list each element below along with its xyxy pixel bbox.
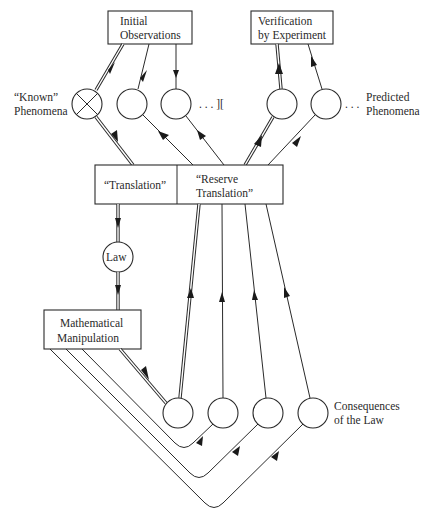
edge-predicted1-to-verification	[275, 44, 283, 89]
edge-consequence2-to-reserve	[219, 204, 225, 398]
arrow-up-icon	[271, 451, 279, 461]
consequences-line2: of the Law	[334, 414, 385, 426]
predicted-phenomena-line2: Phenomena	[366, 105, 420, 117]
known-phenomena-line2: Phenomena	[14, 105, 68, 117]
known-phenomena-label: “Known” Phenomena	[14, 91, 68, 117]
law-node: Law	[103, 242, 133, 272]
arrow-up-icon	[219, 292, 225, 302]
scientific-method-diagram: Initial Observations Verification by Exp…	[0, 0, 429, 516]
arrow-up-icon	[232, 446, 240, 456]
ellipsis-left: . . . ][	[199, 98, 224, 110]
consequence-node	[253, 398, 283, 428]
edge-observations-to-known	[96, 44, 123, 90]
consequence-node	[163, 398, 193, 428]
observed-phenomenon-node	[117, 89, 147, 119]
edge-law-to-math	[115, 272, 121, 310]
edge-reserve-to-circle2	[143, 115, 193, 165]
arrow-up-icon	[275, 63, 283, 74]
edge-reserve-to-predicted2	[268, 115, 315, 165]
arrow-down-icon	[115, 285, 121, 295]
translation-label: “Translation”	[104, 179, 166, 191]
initial-observations-box: Initial Observations	[108, 11, 192, 44]
consequences-line1: Consequences	[334, 400, 400, 413]
translation-box: “Translation” “Reserve Translation”	[95, 165, 283, 204]
arrow-up-icon	[252, 290, 258, 300]
consequence-node	[208, 398, 238, 428]
predicted-phenomena-line1: Predicted	[366, 91, 410, 103]
arrow-up-icon	[284, 287, 290, 298]
edge-math-to-consequence2	[82, 349, 213, 448]
initial-observations-line2: Observations	[120, 29, 181, 41]
verification-line1: Verification	[258, 15, 313, 27]
predicted-phenomena-label: Predicted Phenomena	[366, 91, 420, 117]
arrow-up-icon	[197, 130, 206, 140]
edge-consequence3-to-reserve	[245, 204, 266, 398]
edge-consequence1-to-reserve	[180, 204, 199, 398]
verification-box: Verification by Experiment	[251, 11, 333, 44]
edge-reserve-to-predicted1	[245, 117, 273, 165]
predicted-phenomenon-node	[311, 89, 341, 119]
predicted-phenomenon-node	[267, 89, 297, 119]
edge-reserve-to-circle3	[186, 116, 224, 165]
initial-observations-line1: Initial	[120, 15, 147, 27]
math-manipulation-line1: Mathematical	[60, 317, 123, 329]
arrow-down-icon	[173, 70, 179, 78]
law-label: Law	[106, 251, 127, 263]
reserve-translation-line1: “Reserve	[196, 173, 238, 185]
arrow-down-icon	[115, 218, 121, 228]
reserve-translation-line2: Translation”	[196, 187, 253, 199]
ellipsis-right: . . .	[345, 98, 360, 110]
edge-known-to-translation	[96, 117, 133, 165]
verification-line2: by Experiment	[258, 29, 327, 42]
edge-translation-to-law	[115, 204, 121, 242]
edge-consequence4-to-reserve	[266, 204, 310, 398]
mathematical-manipulation-box: Mathematical Manipulation	[44, 310, 141, 349]
math-manipulation-line2: Manipulation	[57, 332, 119, 345]
consequence-node	[298, 398, 328, 428]
arrow-up-icon	[311, 56, 317, 67]
edge-predicted2-to-verification	[308, 44, 322, 89]
arrow-up-icon	[187, 288, 194, 298]
known-phenomena-line1: “Known”	[14, 91, 58, 103]
observed-phenomenon-node	[161, 89, 191, 119]
edge-observations-to-circle3	[173, 44, 179, 89]
known-phenomena-node	[72, 89, 102, 119]
consequences-label: Consequences of the Law	[334, 400, 400, 426]
edge-observations-to-circle2	[138, 44, 149, 89]
